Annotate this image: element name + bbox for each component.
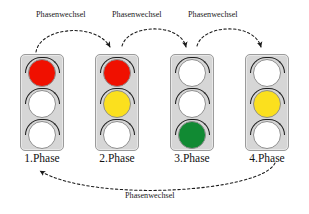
traffic-light-phase-4[interactable]: 4.Phase: [243, 54, 291, 151]
transition-label-4-to-1: Phasenwechsel: [123, 191, 177, 200]
phase-label-4: 4.Phase: [243, 152, 291, 164]
yellow-lamp[interactable]: [103, 90, 131, 118]
lamp-slot-yellow: [250, 87, 285, 118]
green-lamp[interactable]: [253, 121, 281, 149]
transition-arrow-3-to-4: [197, 29, 261, 47]
lamp-slot-yellow: [100, 87, 135, 118]
lamp-slot-red: [175, 56, 210, 87]
traffic-light-phase-diagram: Phasenwechsel Phasenwechsel Phasenwechse…: [0, 0, 309, 214]
traffic-light-phase-2[interactable]: 2.Phase: [93, 54, 141, 151]
traffic-light-housing: [245, 54, 289, 151]
red-lamp[interactable]: [178, 59, 206, 87]
traffic-light-housing: [170, 54, 214, 151]
traffic-light-phase-1[interactable]: 1.Phase: [18, 54, 66, 151]
green-lamp[interactable]: [103, 121, 131, 149]
transition-arrow-2-to-3: [122, 29, 186, 47]
phase-label-1: 1.Phase: [18, 152, 66, 164]
yellow-lamp[interactable]: [253, 90, 281, 118]
phase-label-3: 3.Phase: [168, 152, 216, 164]
traffic-light-housing: [95, 54, 139, 151]
lamp-slot-green: [175, 118, 210, 149]
transition-label-3-to-4: Phasenwechsel: [188, 10, 238, 19]
transition-label-1-to-2: Phasenwechsel: [36, 10, 86, 19]
green-lamp[interactable]: [178, 121, 206, 149]
yellow-lamp[interactable]: [178, 90, 206, 118]
transition-label-2-to-3: Phasenwechsel: [112, 10, 162, 19]
red-lamp[interactable]: [103, 59, 131, 87]
traffic-light-housing: [20, 54, 64, 151]
lamp-slot-red: [250, 56, 285, 87]
traffic-light-phase-3[interactable]: 3.Phase: [168, 54, 216, 151]
transition-arrow-1-to-2: [36, 31, 110, 52]
transition-arrow-4-to-1: [40, 163, 275, 190]
lamp-slot-red: [25, 56, 60, 87]
lamp-slot-green: [250, 118, 285, 149]
phase-label-2: 2.Phase: [93, 152, 141, 164]
green-lamp[interactable]: [28, 121, 56, 149]
lamp-slot-green: [100, 118, 135, 149]
lamp-slot-green: [25, 118, 60, 149]
lamp-slot-yellow: [175, 87, 210, 118]
red-lamp[interactable]: [253, 59, 281, 87]
lamp-slot-yellow: [25, 87, 60, 118]
lamp-slot-red: [100, 56, 135, 87]
red-lamp[interactable]: [28, 59, 56, 87]
yellow-lamp[interactable]: [28, 90, 56, 118]
